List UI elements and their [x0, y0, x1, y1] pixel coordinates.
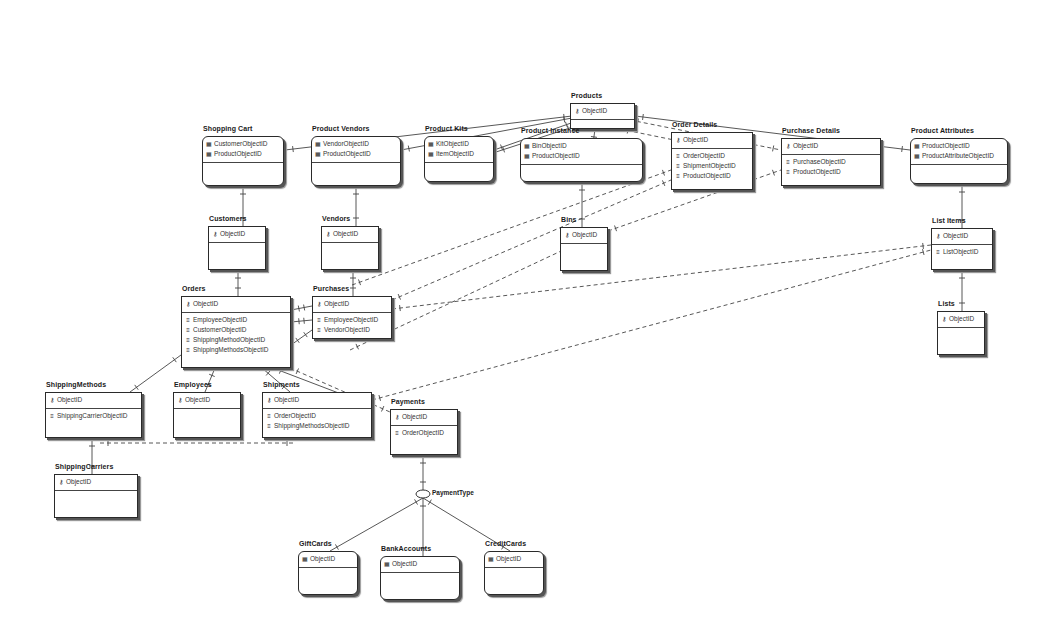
entity-shipping-carriers[interactable]: ObjectIDShippingCarriers — [54, 474, 138, 518]
entity-list-items[interactable]: ObjectIDListObjectIDList Items — [931, 228, 993, 270]
entity-title: Order Details — [672, 121, 717, 128]
entity-title: ShippingCarriers — [55, 463, 113, 470]
entity-purchases[interactable]: ObjectIDEmployeeObjectIDVendorObjectIDPu… — [312, 296, 392, 339]
primary-key-section: ObjectID — [299, 552, 357, 568]
attribute-name: ObjectID — [274, 395, 299, 405]
attribute-row: EmployeeObjectID — [185, 315, 287, 325]
entity-products[interactable]: ObjectIDProducts — [570, 103, 635, 129]
attribute-section: ListObjectID — [932, 245, 992, 259]
entity-box: ObjectIDOrderObjectID — [390, 409, 458, 455]
entity-box: ProductObjectIDProductAttributeObjectID — [910, 138, 1008, 184]
relationship-line — [392, 245, 931, 309]
cardinality-tick — [637, 119, 638, 125]
key-icon — [325, 231, 331, 237]
entity-box: ObjectIDListObjectID — [931, 228, 993, 270]
subtype-label: PaymentType — [432, 489, 474, 496]
attribute-row: ObjectID — [212, 229, 262, 239]
primary-key-section: ObjectID — [381, 557, 459, 573]
identifying-key-icon — [315, 141, 321, 147]
relationship-lines — [0, 0, 1055, 639]
entity-credit-cards[interactable]: ObjectIDCreditCards — [484, 551, 544, 595]
attribute-name: OrderObjectID — [274, 411, 316, 421]
attribute-name: EmployeeObjectID — [193, 315, 247, 325]
relationship-line — [205, 368, 215, 392]
relationship-line — [352, 170, 671, 285]
attribute-row: ProductObjectID — [315, 149, 397, 159]
attribute-name: ObjectID — [310, 554, 335, 564]
attribute-row: PurchaseObjectID — [785, 157, 877, 167]
foreign-key-icon — [185, 327, 191, 333]
entity-product-attributes[interactable]: ProductObjectIDProductAttributeObjectIDP… — [910, 138, 1008, 184]
attribute-name: ObjectID — [496, 554, 521, 564]
entity-customers[interactable]: ObjectIDCustomers — [208, 226, 266, 270]
attribute-name: ObjectID — [402, 412, 427, 422]
entity-box: ObjectIDOrderObjectIDShippingMethodsObje… — [262, 392, 372, 438]
foreign-key-icon — [675, 173, 681, 179]
entity-shipping-methods[interactable]: ObjectIDShippingCarrierObjectIDShippingM… — [45, 392, 142, 438]
attribute-row: ShippingMethodObjectID — [185, 335, 287, 345]
cardinality-tick — [296, 338, 299, 343]
foreign-key-icon — [935, 249, 941, 255]
key-icon — [316, 301, 322, 307]
entity-shopping-cart[interactable]: CustomerObjectIDProductObjectIDShopping … — [202, 136, 284, 186]
primary-key-section: ObjectID — [571, 104, 634, 120]
entity-box: ObjectID — [208, 226, 266, 270]
entity-product-instance[interactable]: BinObjectIDProductObjectIDProduct Instan… — [520, 138, 643, 182]
entity-title: ShippingMethods — [46, 381, 106, 388]
entity-shipments[interactable]: ObjectIDOrderObjectIDShippingMethodsObje… — [262, 392, 372, 438]
cardinality-tick — [643, 114, 644, 120]
cardinality-tick — [773, 145, 774, 151]
primary-key-section: ObjectID — [209, 227, 265, 243]
entity-purchase-details[interactable]: ObjectIDPurchaseObjectIDProductObjectIDP… — [781, 138, 881, 186]
identifying-key-icon — [384, 561, 390, 567]
entity-title: Vendors — [322, 215, 350, 222]
entity-bins[interactable]: ObjectIDBins — [560, 227, 608, 271]
attribute-row: ObjectID — [302, 554, 354, 564]
entity-box: ObjectIDOrderObjectIDShipmentObjectIDPro… — [671, 132, 753, 190]
attribute-name: OrderObjectID — [683, 151, 725, 161]
attribute-row: ObjectID — [564, 230, 604, 240]
attribute-row: VendorObjectID — [316, 325, 388, 335]
entity-title: List Items — [932, 217, 966, 224]
attribute-row: ProductObjectID — [785, 167, 877, 177]
foreign-key-icon — [675, 153, 681, 159]
entity-gift-cards[interactable]: ObjectIDGiftCards — [298, 551, 358, 595]
primary-key-section: ProductObjectIDProductAttributeObjectID — [911, 139, 1007, 165]
primary-key-section: ObjectID — [561, 228, 607, 244]
entity-payments[interactable]: ObjectIDOrderObjectIDPayments — [390, 409, 458, 455]
primary-key-section: ObjectID — [46, 393, 141, 409]
attribute-row: ObjectID — [325, 229, 375, 239]
entity-order-details[interactable]: ObjectIDOrderObjectIDShipmentObjectIDPro… — [671, 132, 753, 190]
entity-title: Employees — [174, 381, 212, 388]
entity-box: ObjectID — [560, 227, 608, 271]
entity-product-kits[interactable]: KitObjectIDItemObjectIDProduct Kits — [424, 136, 494, 182]
attribute-name: ObjectID — [943, 231, 968, 241]
entity-product-vendors[interactable]: VendorObjectIDProductObjectIDProduct Ven… — [311, 136, 401, 186]
entity-orders[interactable]: ObjectIDEmployeeObjectIDCustomerObjectID… — [181, 296, 291, 368]
key-icon — [58, 479, 64, 485]
entity-employees[interactable]: ObjectIDEmployees — [173, 392, 241, 438]
cardinality-tick — [428, 500, 431, 505]
attribute-name: ShippingMethodsObjectID — [274, 421, 350, 431]
entity-box: ObjectID — [484, 551, 544, 595]
attribute-name: BinObjectID — [532, 141, 567, 151]
attribute-name: KitObjectID — [436, 139, 469, 149]
attribute-section: OrderObjectIDShipmentObjectIDProductObje… — [672, 149, 752, 183]
entity-bank-accounts[interactable]: ObjectIDBankAccounts — [380, 556, 460, 600]
entity-title: Payments — [391, 398, 425, 405]
subtype-discriminator: PaymentType — [432, 489, 474, 496]
entity-vendors[interactable]: ObjectIDVendors — [321, 226, 379, 270]
key-icon — [185, 301, 191, 307]
attribute-row: ObjectID — [785, 141, 877, 151]
key-icon — [266, 397, 272, 403]
primary-key-section: KitObjectIDItemObjectID — [425, 137, 493, 163]
attribute-row: ProductObjectID — [524, 151, 639, 161]
entity-box: ObjectIDEmployeeObjectIDCustomerObjectID… — [181, 296, 291, 368]
attribute-row: ListObjectID — [935, 247, 989, 257]
entity-lists[interactable]: ObjectIDLists — [937, 311, 985, 355]
attribute-name: ProductObjectID — [793, 167, 841, 177]
attribute-name: ProductObjectID — [214, 149, 262, 159]
attribute-row: BinObjectID — [524, 141, 639, 151]
primary-key-section: ObjectID — [55, 475, 137, 491]
key-icon — [564, 232, 570, 238]
